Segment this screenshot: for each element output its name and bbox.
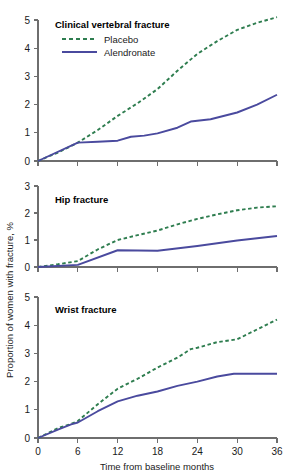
panel3-ytick-3: 3: [24, 348, 30, 359]
panel1-ytick-0: 0: [24, 156, 30, 167]
panel3-ytick-5: 5: [24, 292, 30, 303]
xtick-36: 36: [271, 446, 283, 457]
panel3-ytick-0: 0: [24, 433, 30, 444]
panel2-series-placebo: [38, 206, 277, 267]
panel3-series-alendronate: [38, 374, 277, 438]
panel2-y-tick-labels: 0 1 2 3: [24, 181, 30, 273]
panel3-ytick-4: 4: [24, 320, 30, 331]
panel1-x-ticks: [38, 161, 277, 166]
legend-label-placebo: Placebo: [104, 34, 138, 45]
fracture-incidence-figure: Proportion of women with fracture, % 0 1…: [0, 0, 289, 472]
panel-wrist-fracture: 0 1 2 3 4 5 0 6 12 18 24: [24, 292, 283, 458]
panel3-axes: [38, 297, 277, 438]
xtick-30: 30: [232, 446, 244, 457]
xtick-12: 12: [112, 446, 124, 457]
panel-clinical-vertebral-fracture: 0 1 2 3 4 5 Clinical vertebral fracture: [24, 15, 277, 167]
panel2-x-ticks: [38, 267, 277, 272]
y-axis-title: Proportion of women with fracture, %: [4, 222, 15, 378]
panel1-title: Clinical vertebral fracture: [55, 19, 170, 30]
panel2-title: Hip fracture: [55, 194, 108, 205]
xtick-18: 18: [152, 446, 164, 457]
legend-label-alendronate: Alendronate: [104, 47, 155, 58]
panel3-y-tick-labels: 0 1 2 3 4 5: [24, 292, 30, 444]
xtick-6: 6: [75, 446, 81, 457]
panel1-axes: [38, 20, 277, 161]
panel2-y-ticks: [34, 186, 38, 267]
xtick-24: 24: [192, 446, 204, 457]
panel1-ytick-2: 2: [24, 99, 30, 110]
panel3-ytick-1: 1: [24, 404, 30, 415]
panel3-y-ticks: [34, 297, 38, 438]
panel2-ytick-1: 1: [24, 235, 30, 246]
panel1-series-alendronate: [38, 95, 277, 161]
chart-svg: Proportion of women with fracture, % 0 1…: [0, 0, 289, 472]
xtick-0: 0: [35, 446, 41, 457]
panel2-ytick-2: 2: [24, 208, 30, 219]
panel1-ytick-3: 3: [24, 71, 30, 82]
panel2-ytick-0: 0: [24, 262, 30, 273]
panel3-x-ticks: [38, 438, 277, 443]
panel1-ytick-1: 1: [24, 127, 30, 138]
panel1-ytick-5: 5: [24, 15, 30, 26]
panel3-title: Wrist fracture: [55, 304, 117, 315]
panel3-x-tick-labels: 0 6 12 18 24 30 36: [35, 446, 283, 457]
panel3-ytick-2: 2: [24, 376, 30, 387]
panel-hip-fracture: 0 1 2 3 Hip fracture: [24, 181, 277, 273]
panel1-series-placebo: [38, 17, 277, 161]
x-axis-title: Time from baseline months: [100, 461, 214, 472]
panel3-series-placebo: [38, 320, 277, 438]
chart-legend: Placebo Alendronate: [62, 34, 155, 58]
panel2-ytick-3: 3: [24, 181, 30, 192]
panel1-y-ticks: [34, 20, 38, 161]
panel2-series-alendronate: [38, 236, 277, 267]
panel1-ytick-4: 4: [24, 43, 30, 54]
panel1-y-tick-labels: 0 1 2 3 4 5: [24, 15, 30, 167]
